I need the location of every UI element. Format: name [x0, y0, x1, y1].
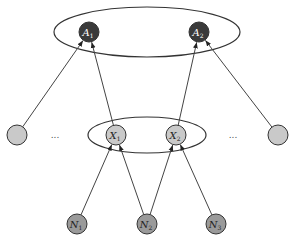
node-N2: N2 [137, 214, 157, 234]
node-N3: N3 [206, 214, 226, 234]
ellipsis-dots-1: ... [51, 130, 60, 140]
node-R [268, 125, 288, 145]
node-L [7, 125, 27, 145]
node-circle [268, 125, 288, 145]
edges [23, 40, 272, 215]
node-A2: A2 [189, 22, 209, 42]
node-circle [7, 125, 27, 145]
node-A1: A1 [79, 22, 99, 42]
ellipsis-markers: ...... [51, 130, 238, 140]
nodes: A1A2X1X2N1N2N3 [7, 22, 288, 234]
edge-N2-to-X2 [150, 145, 173, 215]
node-X1: X1 [106, 125, 126, 145]
node-N1: N1 [67, 214, 87, 234]
edge-N3-to-X2 [180, 145, 212, 215]
ellipsis-dots-2: ... [229, 130, 238, 140]
network-diagram: A1A2X1X2N1N2N3 ...... [0, 0, 292, 244]
edge-R-to-A2 [205, 40, 272, 127]
edge-N1-to-X1 [81, 145, 112, 215]
edge-L-to-A1 [23, 41, 83, 127]
node-X2: X2 [166, 125, 186, 145]
edge-N2-to-X1 [119, 145, 143, 215]
